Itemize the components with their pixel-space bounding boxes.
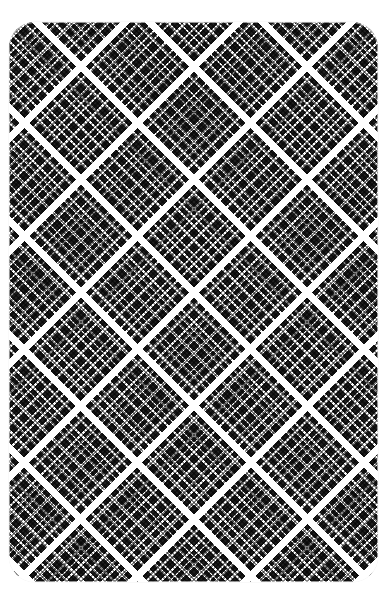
canvas: Diagonal Plaid Pattern Swatch (0, 0, 389, 606)
plaid-weft-stripes (9, 22, 378, 582)
plaid-swatch-card[interactable] (9, 22, 378, 582)
plaid-pattern-surface (9, 22, 378, 582)
